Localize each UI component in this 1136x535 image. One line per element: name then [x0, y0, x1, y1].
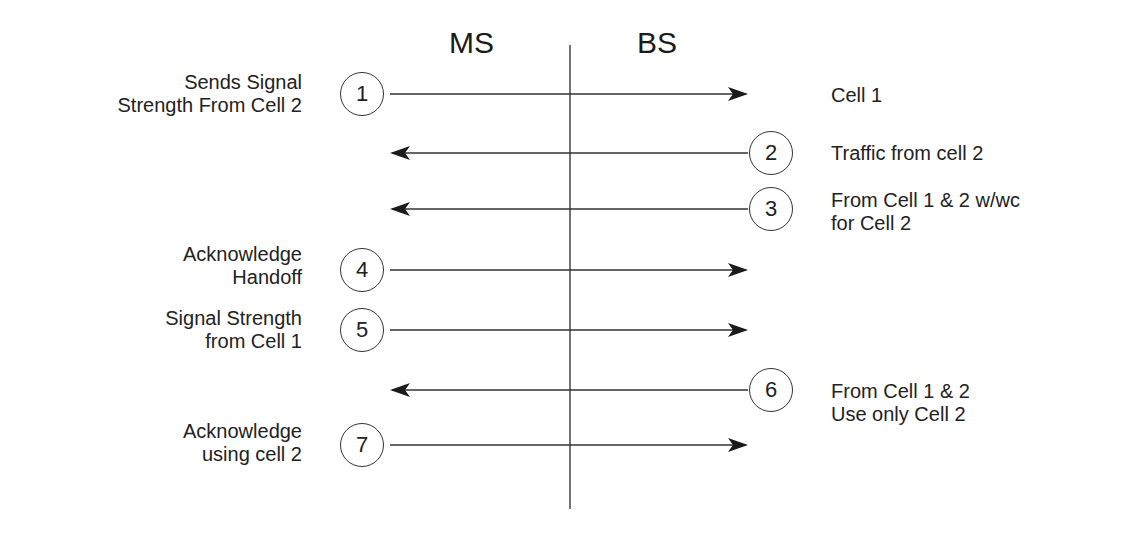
bs-header: BS — [637, 26, 677, 60]
step-4-circle: 4 — [340, 248, 384, 292]
step-5-ms-label: Signal Strength from Cell 1 — [165, 307, 302, 353]
step-3-circle: 3 — [749, 187, 793, 231]
step-2-bs-label: Traffic from cell 2 — [831, 142, 983, 165]
step-4-ms-label: Acknowledge Handoff — [183, 243, 302, 289]
step-6-circle: 6 — [749, 368, 793, 412]
label-line: Traffic from cell 2 — [831, 142, 983, 165]
label-line: from Cell 1 — [165, 330, 302, 353]
step-1-circle: 1 — [340, 72, 384, 116]
label-line: Acknowledge — [183, 420, 302, 443]
step-7-circle: 7 — [340, 423, 384, 467]
label-line: Cell 1 — [831, 84, 882, 107]
label-line: Strength From Cell 2 — [117, 94, 302, 117]
step-6-bs-label: From Cell 1 & 2 Use only Cell 2 — [831, 380, 970, 426]
label-line: for Cell 2 — [831, 212, 1020, 235]
label-line: using cell 2 — [183, 443, 302, 466]
label-line: From Cell 1 & 2 — [831, 380, 970, 403]
label-line: Signal Strength — [165, 307, 302, 330]
step-5-circle: 5 — [340, 308, 384, 352]
step-1-bs-label: Cell 1 — [831, 84, 882, 107]
label-line: Use only Cell 2 — [831, 403, 970, 426]
label-line: From Cell 1 & 2 w/wc — [831, 189, 1020, 212]
step-2-circle: 2 — [749, 131, 793, 175]
step-1-ms-label: Sends Signal Strength From Cell 2 — [117, 71, 302, 117]
step-7-ms-label: Acknowledge using cell 2 — [183, 420, 302, 466]
ms-header: MS — [449, 26, 494, 60]
label-line: Sends Signal — [117, 71, 302, 94]
label-line: Acknowledge — [183, 243, 302, 266]
label-line: Handoff — [183, 266, 302, 289]
step-3-bs-label: From Cell 1 & 2 w/wc for Cell 2 — [831, 189, 1020, 235]
